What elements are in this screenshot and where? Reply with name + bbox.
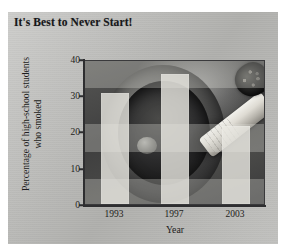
x-axis-label: Year (166, 224, 184, 235)
x-tick-label-2003: 2003 (226, 209, 245, 219)
y-tickmark-20 (79, 131, 84, 133)
x-tick-label-1993: 1993 (105, 209, 124, 219)
y-axis-label-line2: who smoked (31, 49, 43, 199)
ash-lump (137, 137, 157, 154)
x-axis-line (83, 205, 266, 207)
y-tickmark-0 (79, 204, 84, 206)
bar-2003 (222, 126, 250, 204)
y-axis-label: Percentage of high-school students who s… (14, 48, 48, 200)
y-tickmark-30 (79, 95, 84, 97)
y-tickmark-10 (79, 168, 84, 170)
y-tickmark-40 (79, 59, 84, 61)
y-tick-label-0: 0 (60, 200, 80, 210)
y-tick-label-10: 10 (60, 164, 80, 174)
y-tick-label-30: 30 (60, 91, 80, 101)
y-tick-label-40: 40 (60, 55, 80, 65)
y-tick-label-20: 20 (60, 127, 80, 137)
chart-screenshot: It's Best to Never Start! Percentage of … (0, 0, 286, 251)
y-axis-ticks: 40 30 20 10 0 (56, 0, 80, 251)
plot-area (84, 60, 265, 205)
bar-1997 (161, 74, 189, 205)
y-axis-label-line1: Percentage of high-school students (20, 49, 32, 199)
x-tick-label-1997: 1997 (165, 209, 184, 219)
bar-1993 (101, 93, 129, 204)
